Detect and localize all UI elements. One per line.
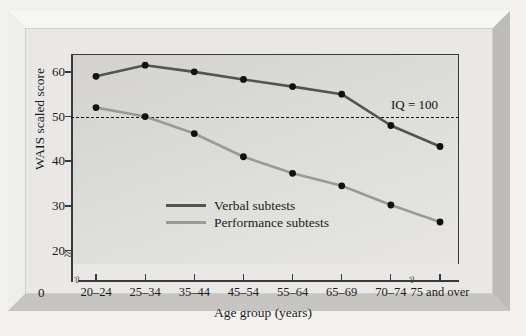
data-point	[191, 68, 198, 75]
data-point	[93, 104, 100, 111]
data-point	[240, 76, 247, 83]
data-point	[338, 91, 345, 98]
data-point	[289, 170, 296, 177]
data-point	[387, 122, 394, 129]
legend-item-verbal: Verbal subtests	[166, 197, 329, 214]
plot-canvas: 2030405060 20–2425–3435–4445–5455–6465–6…	[8, 11, 510, 311]
data-point	[142, 113, 149, 120]
chart-figure: 2030405060 20–2425–3435–4445–5455–6465–6…	[0, 0, 526, 336]
chart-legend: Verbal subtestsPerformance subtests	[166, 197, 329, 231]
data-point	[387, 202, 394, 209]
legend-item-performance: Performance subtests	[166, 214, 329, 231]
data-point	[142, 62, 149, 69]
data-point	[191, 130, 198, 137]
legend-swatch-icon	[166, 221, 206, 224]
data-point	[240, 153, 247, 160]
legend-label: Performance subtests	[214, 215, 329, 231]
data-point	[289, 83, 296, 90]
data-point	[338, 182, 345, 189]
data-point	[437, 143, 444, 150]
x-axis-title: Age group (years)	[0, 305, 526, 321]
legend-swatch-icon	[166, 204, 206, 207]
data-point	[93, 73, 100, 80]
data-series-layer	[8, 11, 510, 311]
y-axis-title: WAIS scaled score	[32, 29, 48, 209]
legend-label: Verbal subtests	[214, 198, 295, 214]
series-line-verbal	[96, 65, 440, 146]
data-point	[437, 219, 444, 226]
